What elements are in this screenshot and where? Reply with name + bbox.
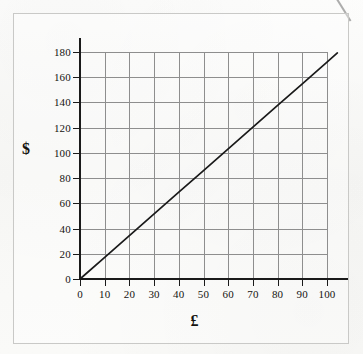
y-axis-tick-label: 120 — [54, 122, 71, 134]
x-axis-tick-label: 80 — [272, 288, 283, 300]
gridline-horizontal — [80, 203, 327, 204]
x-axis-tick-label: 20 — [124, 288, 135, 300]
x-axis-tick-label: 100 — [318, 288, 335, 300]
x-axis-tick — [105, 279, 106, 286]
y-axis-tick — [73, 229, 80, 230]
data-line-svg — [74, 34, 354, 294]
y-axis-tick — [73, 128, 80, 129]
x-axis-tick-label: 10 — [99, 288, 110, 300]
x-axis-tick-label: 50 — [198, 288, 209, 300]
x-axis-tick — [179, 279, 180, 286]
y-axis-tick-label: 180 — [54, 46, 71, 58]
gridline-vertical — [154, 52, 155, 279]
y-axis-tick — [73, 52, 80, 53]
y-axis-tick-label: 40 — [60, 223, 71, 235]
x-axis-tick — [129, 279, 130, 286]
y-axis-tick-label: 80 — [60, 172, 71, 184]
x-axis-tick — [327, 279, 328, 286]
x-axis-line — [79, 278, 348, 280]
plot-area — [80, 52, 327, 279]
y-axis-tick — [73, 153, 80, 154]
y-axis-line — [79, 38, 81, 279]
x-axis-tick-labels: 0102030405060708090100 — [80, 288, 327, 304]
gridline-vertical — [302, 52, 303, 279]
gridline-horizontal — [80, 128, 327, 129]
gridline-vertical — [253, 52, 254, 279]
gridline-vertical — [228, 52, 229, 279]
y-axis-tick-labels: 020406080100120140160180 — [38, 52, 71, 279]
data-series-line — [74, 34, 354, 294]
x-axis-tick-label: 70 — [247, 288, 258, 300]
gridline-horizontal — [80, 254, 327, 255]
y-axis-tick-label: 160 — [54, 71, 71, 83]
x-axis-tick — [154, 279, 155, 286]
gridline-vertical — [278, 52, 279, 279]
y-axis-tick-label: 0 — [65, 273, 71, 285]
x-axis-tick — [253, 279, 254, 286]
gridline-horizontal — [80, 153, 327, 154]
x-axis-tick — [278, 279, 279, 286]
y-axis-tick-label: 100 — [54, 147, 71, 159]
y-axis-tick — [73, 102, 80, 103]
y-axis-tick-label: 140 — [54, 96, 71, 108]
x-axis-tick — [204, 279, 205, 286]
y-axis-tick — [73, 77, 80, 78]
x-axis-tick-label: 60 — [222, 288, 233, 300]
chart-figure: 020406080100120140160180 010203040506070… — [0, 0, 363, 354]
gridline-horizontal — [80, 178, 327, 179]
x-axis-tick — [302, 279, 303, 286]
x-axis-title: £ — [0, 312, 363, 330]
y-axis-tick-label: 60 — [60, 197, 71, 209]
gridline-vertical — [179, 52, 180, 279]
gridline-horizontal — [80, 229, 327, 230]
y-axis-tick — [73, 254, 80, 255]
gridline-vertical — [204, 52, 205, 279]
gridline-horizontal — [80, 77, 327, 78]
gridline-vertical — [327, 52, 328, 279]
gridline-vertical — [129, 52, 130, 279]
gridline-horizontal — [80, 52, 327, 53]
x-axis-tick — [228, 279, 229, 286]
x-axis-title-text: £ — [191, 312, 199, 329]
x-axis-tick-label: 0 — [77, 288, 83, 300]
x-axis-tick-label: 90 — [297, 288, 308, 300]
y-axis-tick — [73, 203, 80, 204]
y-axis-title: $ — [22, 140, 30, 158]
gridline-vertical — [105, 52, 106, 279]
y-axis-tick — [73, 279, 80, 280]
x-axis-tick-label: 40 — [173, 288, 184, 300]
x-axis-tick — [80, 279, 81, 286]
gridline-horizontal — [80, 102, 327, 103]
y-axis-tick-label: 20 — [60, 248, 71, 260]
series-polyline — [80, 53, 337, 279]
y-axis-tick — [73, 178, 80, 179]
x-axis-tick-label: 30 — [148, 288, 159, 300]
